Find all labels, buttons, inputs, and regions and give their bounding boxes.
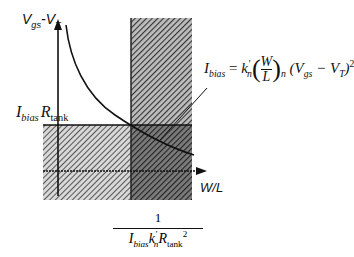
bias-equation: Ibias = k'n(WL)n (Vgs − VT)2 <box>204 55 354 84</box>
overlap-region <box>131 125 192 200</box>
y-axis-label: Vgs-VT <box>22 12 61 26</box>
x-axis-arrow-icon <box>196 167 207 175</box>
level-label: IbiasRtank <box>16 104 68 120</box>
x-threshold-label: 1 Ibiask'nRtank2 <box>113 210 203 247</box>
x-axis-label: W/L <box>200 181 223 194</box>
